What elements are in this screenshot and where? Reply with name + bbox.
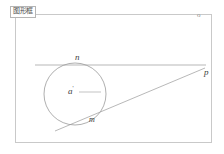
- point-label-m: m: [89, 115, 95, 125]
- figure-canvas: 图形框 o n a' m p: [0, 0, 224, 154]
- point-label-a-prime: ': [73, 85, 74, 91]
- geometry-drawing: [0, 0, 224, 154]
- point-label-n: n: [75, 52, 80, 62]
- circle-shape[interactable]: [44, 63, 106, 125]
- slanted-tangent-line[interactable]: [55, 68, 205, 131]
- origin-marker-label: o: [197, 11, 201, 19]
- point-label-a: a': [68, 83, 74, 96]
- point-label-p: p: [204, 67, 209, 77]
- figure-title-chip[interactable]: 图形框: [10, 6, 36, 18]
